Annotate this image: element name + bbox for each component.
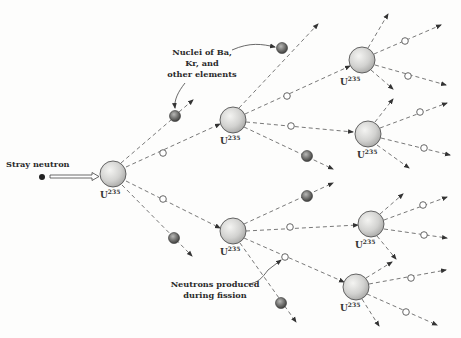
path-3d-up (366, 262, 392, 278)
neutron (160, 150, 167, 157)
u235-nucleus-gen3-b: U235 (355, 121, 381, 160)
path-1-down-neutron (126, 181, 220, 228)
neutron (421, 145, 428, 152)
path-2a-n2 (246, 122, 353, 132)
neutron (282, 254, 289, 261)
u235-nucleus-gen2-upper: U235 (220, 107, 246, 146)
path-3b-n2 (381, 138, 450, 155)
svg-text:U235: U235 (340, 301, 360, 313)
fission-diagram: Stray neutron (0, 0, 461, 338)
path-1-down-fragment (122, 185, 192, 256)
u235-nucleus-gen2-lower: U235 (220, 218, 246, 257)
svg-text:U235: U235 (357, 148, 377, 160)
path-2a-up (239, 24, 318, 108)
path-3a-down (371, 70, 393, 89)
neutron (403, 309, 410, 316)
hollow-arrow (50, 173, 99, 181)
svg-text:U235: U235 (340, 75, 360, 87)
neutron (402, 38, 409, 45)
neutron (420, 202, 427, 209)
neutron (408, 275, 415, 282)
svg-text:Neutrons produced: Neutrons produced (171, 279, 260, 289)
path-2b-up (244, 183, 333, 224)
fragment-nucleus (302, 191, 313, 202)
stray-neutron (39, 174, 45, 180)
u235-nucleus-gen1: U235 (100, 161, 126, 200)
neutron (284, 93, 291, 100)
path-3d-n2 (367, 294, 437, 325)
path-2b-n2 (244, 238, 344, 282)
path-2b-n1 (246, 225, 358, 231)
neutron (405, 73, 412, 80)
path-3d-down (362, 299, 379, 326)
neutron (421, 232, 428, 239)
svg-text:Kr, and: Kr, and (185, 58, 219, 68)
neutron (288, 123, 295, 130)
svg-text:Nuclei of Ba,: Nuclei of Ba, (172, 47, 232, 57)
svg-text:during fission: during fission (183, 290, 246, 300)
neutron (160, 196, 167, 203)
fragment-nucleus (277, 43, 288, 54)
fragment-nucleus (170, 111, 181, 122)
u235-nucleus-gen3-d: U235 (340, 274, 369, 313)
u235-nucleus-gen3-c: U235 (355, 211, 384, 250)
neutron (287, 224, 294, 231)
fragment-nucleus (169, 233, 180, 244)
stray-neutron-label: Stray neutron (6, 159, 70, 169)
path-3c-n2 (384, 229, 447, 238)
svg-text:U235: U235 (355, 238, 375, 250)
path-1-up-neutron (126, 124, 220, 167)
path-3c-up (380, 194, 403, 214)
nuclei-annotation: Nuclei of Ba, Kr, and other elements (167, 44, 275, 108)
svg-text:U235: U235 (100, 188, 120, 200)
path-3c-n1 (384, 197, 447, 220)
path-2a-n1 (245, 66, 350, 114)
svg-text:U235: U235 (220, 134, 240, 146)
u235-nucleus-gen3-a: U235 (340, 47, 375, 87)
path-3a-up (368, 14, 388, 48)
path-2a-down (244, 127, 333, 169)
uranium-nuclei: U235 U235 U235 U235 U235 U235 U235 (100, 47, 384, 313)
fragment-nucleus (276, 298, 287, 309)
path-3b-up (375, 99, 393, 122)
fragment-nucleus (302, 151, 313, 162)
svg-text:Stray neutron: Stray neutron (6, 159, 70, 169)
path-1-up-fragment-out (179, 100, 193, 112)
neutrons-annotation: Neutrons produced during fission (171, 260, 281, 300)
neutron (417, 109, 424, 116)
svg-text:other elements: other elements (167, 69, 237, 79)
svg-text:U235: U235 (220, 245, 240, 257)
fission-fragments (169, 43, 313, 309)
emitted-neutrons (160, 38, 428, 316)
path-3b-n1 (380, 103, 447, 128)
path-3b-down (377, 145, 409, 168)
path-3c-down (377, 236, 396, 259)
